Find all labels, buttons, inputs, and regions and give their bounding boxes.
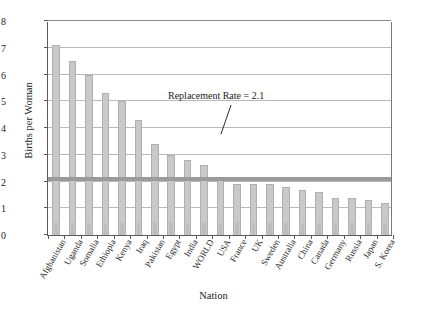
- bar-base: [87, 223, 91, 235]
- bar[interactable]: [151, 144, 159, 235]
- y-axis-tick-label: 8: [0, 17, 6, 27]
- y-axis-tick-label: 4: [0, 124, 6, 134]
- bar-base: [120, 223, 124, 235]
- y-axis-tick-label: 0: [0, 231, 6, 241]
- bar[interactable]: [282, 187, 290, 235]
- y-axis-tick-mark: [44, 20, 48, 21]
- bar-base: [301, 223, 305, 235]
- x-axis-title: Nation: [0, 290, 427, 301]
- bar[interactable]: [217, 179, 225, 235]
- bar-base: [54, 223, 58, 235]
- bar[interactable]: [102, 93, 110, 235]
- bar-base: [186, 223, 190, 235]
- bar[interactable]: [332, 198, 340, 235]
- bar-base: [334, 223, 338, 235]
- bar[interactable]: [365, 200, 373, 235]
- bar-slot: [69, 22, 77, 235]
- bar-base: [104, 223, 108, 235]
- bar-slot: [151, 22, 159, 235]
- bar-slot: [52, 22, 60, 235]
- replacement-rate-line: [48, 177, 391, 181]
- gridline: [48, 20, 391, 21]
- plot-area: Replacement Rate = 2.1: [47, 22, 392, 236]
- bar[interactable]: [266, 184, 274, 235]
- y-axis-tick-label: 6: [0, 71, 6, 81]
- y-axis-title: Births per Woman: [23, 41, 34, 201]
- bar-slot: [233, 22, 241, 235]
- y-axis-tick-label: 7: [0, 44, 6, 54]
- bar-slot: [266, 22, 274, 235]
- bar-base: [235, 223, 239, 235]
- bar[interactable]: [250, 184, 258, 235]
- bar[interactable]: [52, 45, 60, 235]
- bar-slot: [85, 22, 93, 235]
- births-per-woman-bar-chart: Births per Woman Replacement Rate = 2.1 …: [0, 0, 427, 314]
- bar[interactable]: [85, 75, 93, 236]
- bar[interactable]: [69, 61, 77, 235]
- bar[interactable]: [233, 184, 241, 235]
- bar-slot: [348, 22, 356, 235]
- y-axis-tick-label: 1: [0, 204, 6, 214]
- bar[interactable]: [167, 155, 175, 235]
- bar-base: [202, 223, 206, 235]
- bar[interactable]: [381, 203, 389, 235]
- bar-base: [252, 223, 256, 235]
- bar-slot: [167, 22, 175, 235]
- bar-slot: [365, 22, 373, 235]
- bar-slot: [381, 22, 389, 235]
- bar-base: [383, 223, 387, 235]
- bar-slot: [250, 22, 258, 235]
- y-axis-tick-label: 2: [0, 178, 6, 188]
- bar-slot: [315, 22, 323, 235]
- bar-slot: [102, 22, 110, 235]
- bar-slot: [184, 22, 192, 235]
- x-axis-category-labels: AfghanistanUgandaSomaliaEthiopiaKenyaIra…: [47, 238, 392, 288]
- bar-base: [153, 223, 157, 235]
- bar-slot: [282, 22, 290, 235]
- bar-base: [219, 223, 223, 235]
- y-axis-tick-label: 5: [0, 97, 6, 107]
- bar-base: [268, 223, 272, 235]
- bar-slot: [118, 22, 126, 235]
- bar-base: [367, 223, 371, 235]
- bar[interactable]: [299, 190, 307, 235]
- bar-slot: [332, 22, 340, 235]
- bar-slot: [135, 22, 143, 235]
- bar-slot: [200, 22, 208, 235]
- replacement-rate-annotation: Replacement Rate = 2.1: [168, 90, 264, 101]
- bar-base: [71, 223, 75, 235]
- bar-slot: [217, 22, 225, 235]
- bar-base: [137, 223, 141, 235]
- bar-base: [317, 223, 321, 235]
- bar-base: [284, 223, 288, 235]
- bar[interactable]: [315, 192, 323, 235]
- bar-slot: [299, 22, 307, 235]
- bar[interactable]: [118, 101, 126, 235]
- bar[interactable]: [348, 198, 356, 235]
- x-axis-tick-mark: [393, 235, 394, 239]
- y-axis-tick-label: 3: [0, 151, 6, 161]
- bar-base: [350, 223, 354, 235]
- bar-series: [48, 22, 391, 235]
- bar-base: [169, 223, 173, 235]
- bar[interactable]: [184, 160, 192, 235]
